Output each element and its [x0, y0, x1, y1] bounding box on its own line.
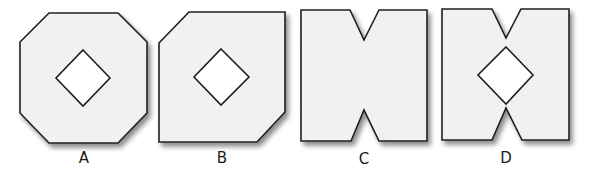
shape-a: A — [20, 13, 147, 167]
shape-c: C — [301, 10, 427, 168]
shape-a-label: A — [79, 149, 90, 167]
shape-b-label: B — [217, 149, 227, 167]
shape-d: D — [442, 9, 569, 167]
shape-b: B — [159, 12, 285, 167]
shape-c-outline — [301, 10, 427, 141]
shape-c-label: C — [359, 150, 369, 168]
shapes-diagram: A B C D — [0, 0, 594, 174]
shape-d-label: D — [500, 149, 512, 167]
